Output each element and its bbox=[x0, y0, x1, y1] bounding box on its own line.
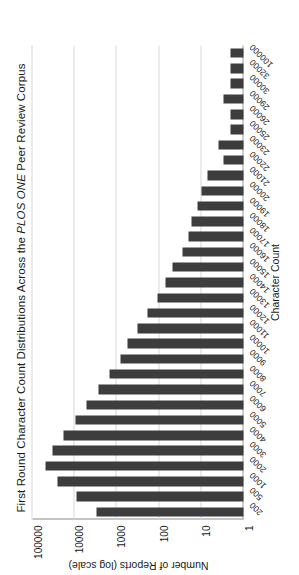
bar bbox=[218, 140, 243, 149]
bar bbox=[172, 262, 243, 271]
bar bbox=[147, 308, 243, 317]
bar bbox=[137, 323, 243, 332]
chart-canvas: First Round Character Count Distribution… bbox=[0, 0, 299, 575]
bar bbox=[52, 445, 243, 454]
chart-title-before: First Round Character Count Distribution… bbox=[14, 233, 26, 512]
bar bbox=[197, 201, 243, 210]
bar bbox=[191, 216, 243, 225]
x-axis-tick-label: 1000 bbox=[247, 470, 268, 491]
x-axis-tick-label: 8000 bbox=[247, 363, 268, 384]
bar bbox=[96, 507, 243, 516]
chart-figure: First Round Character Count Distribution… bbox=[0, 0, 299, 575]
bar bbox=[223, 94, 243, 103]
x-axis-tick-label: 2000 bbox=[247, 454, 268, 475]
bar bbox=[223, 155, 243, 164]
bar bbox=[201, 186, 243, 195]
bar bbox=[120, 354, 243, 363]
bar bbox=[86, 400, 243, 409]
bar bbox=[57, 476, 243, 485]
y-axis-title: Number of Reports (log scale) bbox=[67, 559, 207, 571]
bar bbox=[75, 415, 243, 424]
plot-area: 110100100010000100000 200500100020003000… bbox=[32, 45, 243, 519]
bar bbox=[230, 109, 243, 118]
bar bbox=[207, 170, 243, 179]
bar bbox=[165, 277, 243, 286]
chart-title-after: Peer Review Corpus bbox=[14, 63, 26, 174]
bar bbox=[109, 369, 243, 378]
bar-series bbox=[32, 45, 243, 519]
bar bbox=[45, 461, 243, 470]
bar bbox=[98, 384, 243, 393]
x-axis-title: Character Count bbox=[268, 45, 280, 519]
bar bbox=[230, 124, 243, 133]
bar bbox=[157, 293, 243, 302]
x-axis-tick-label: 200 bbox=[247, 500, 264, 517]
chart-title-italic: PLOS ONE bbox=[14, 174, 26, 234]
chart-title: First Round Character Count Distribution… bbox=[14, 0, 26, 575]
bar bbox=[230, 63, 243, 72]
bar bbox=[188, 231, 243, 240]
bar bbox=[230, 48, 243, 57]
x-axis-tick-label: 5000 bbox=[247, 409, 268, 430]
bar bbox=[76, 491, 243, 500]
bar bbox=[182, 247, 243, 256]
bar bbox=[63, 430, 243, 439]
bar bbox=[127, 338, 243, 347]
x-axis-tick-label: 6000 bbox=[247, 393, 268, 414]
bar bbox=[230, 79, 243, 88]
